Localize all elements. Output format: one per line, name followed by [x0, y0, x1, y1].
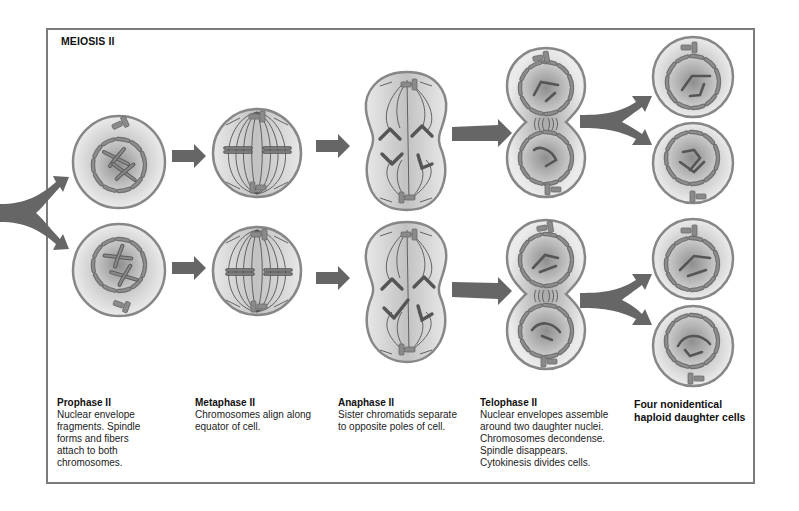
telophase-cell-bottom: [507, 220, 585, 369]
daughter-cell-1: [653, 37, 733, 117]
caption-anaphase: Anaphase II Sister chromatids separate t…: [338, 397, 478, 433]
caption-telophase-text: Nuclear envelopes assemble around two da…: [480, 409, 625, 469]
caption-metaphase: Metaphase II Chromosomes align along equ…: [195, 397, 330, 433]
caption-prophase: Prophase II Nuclear envelope fragments. …: [57, 397, 187, 469]
anaphase-cell-top: [366, 72, 446, 210]
metaphase-cell-bottom: [213, 227, 301, 315]
split-arrow-top: [580, 96, 652, 145]
split-arrow-bottom: [580, 274, 652, 325]
caption-metaphase-text: Chromosomes align along equator of cell.: [195, 409, 330, 433]
caption-anaphase-text: Sister chromatids separate to opposite p…: [338, 409, 478, 433]
caption-metaphase-title: Metaphase II: [195, 397, 330, 409]
anaphase-cell-bottom: [366, 222, 446, 362]
metaphase-cell-top: [213, 109, 301, 197]
arrow-icon: [316, 266, 350, 290]
arrow-icon: [316, 134, 350, 158]
caption-telophase: Telophase II Nuclear envelopes assemble …: [480, 397, 625, 469]
caption-anaphase-title: Anaphase II: [338, 397, 478, 409]
daughter-cell-2: [653, 123, 733, 203]
caption-telophase-title: Telophase II: [480, 397, 625, 409]
caption-daughter-cells: Four nonidentical haploid daughter cells: [634, 398, 754, 423]
prophase-cell-bottom: [73, 224, 165, 316]
arrow-icon: [452, 277, 512, 305]
arrow-icon: [172, 144, 206, 168]
telophase-cell-top: [507, 48, 585, 197]
caption-prophase-title: Prophase II: [57, 397, 187, 409]
prophase-cell-top: [73, 116, 165, 208]
daughter-cell-3: [653, 219, 733, 299]
arrow-icon: [452, 119, 512, 147]
caption-prophase-text: Nuclear envelope fragments. Spindle form…: [57, 409, 187, 469]
arrow-icon: [172, 256, 206, 280]
split-arrow-left: [0, 176, 69, 250]
daughter-cell-4: [653, 306, 733, 386]
